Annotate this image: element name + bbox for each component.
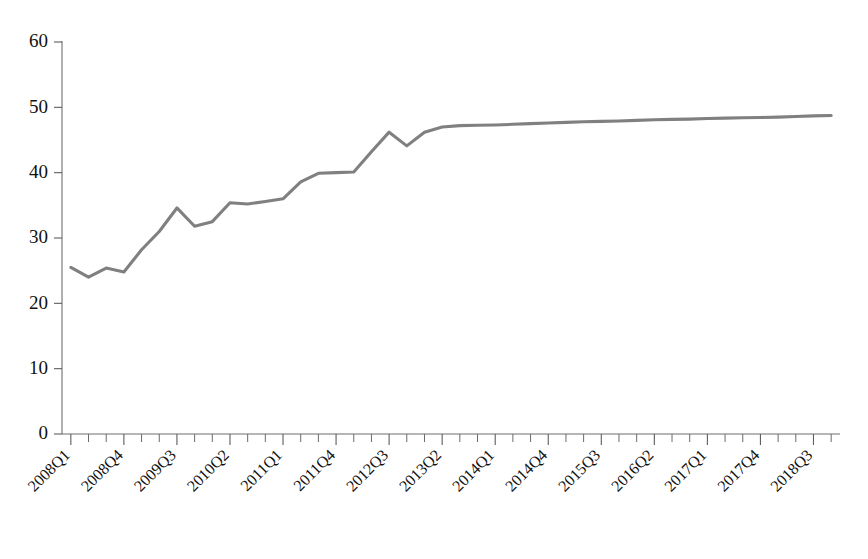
y-tick-label: 50 [29, 96, 48, 117]
x-tick-label: 2011Q1 [237, 446, 285, 494]
x-tick-label: 2009Q3 [131, 446, 179, 494]
chart-figure: 01020304050602008Q12008Q42009Q32010Q2201… [0, 0, 868, 559]
x-tick-label: 2008Q4 [78, 446, 126, 494]
y-tick-label: 40 [29, 161, 48, 182]
x-tick-label: 2018Q3 [767, 446, 815, 494]
y-tick-label: 10 [29, 357, 48, 378]
y-tick-label: 20 [29, 292, 48, 313]
y-tick-label: 60 [29, 30, 48, 51]
x-tick-label: 2016Q2 [608, 446, 656, 494]
x-tick-label: 2012Q3 [343, 446, 391, 494]
data-series-line [71, 116, 831, 278]
x-tick-label: 2014Q4 [502, 446, 550, 494]
x-tick-label: 2017Q1 [661, 446, 709, 494]
figure-caption-strip [0, 545, 868, 559]
x-tick-label: 2014Q1 [449, 446, 497, 494]
line-chart: 01020304050602008Q12008Q42009Q32010Q2201… [0, 0, 868, 559]
y-tick-label: 30 [29, 226, 48, 247]
x-tick-label: 2011Q4 [290, 446, 338, 494]
x-tick-label: 2017Q4 [714, 446, 762, 494]
x-tick-label: 2013Q2 [396, 446, 444, 494]
x-tick-label: 2010Q2 [184, 446, 232, 494]
y-tick-label: 0 [39, 422, 49, 443]
x-tick-label: 2015Q3 [555, 446, 603, 494]
x-tick-label: 2008Q1 [24, 446, 72, 494]
